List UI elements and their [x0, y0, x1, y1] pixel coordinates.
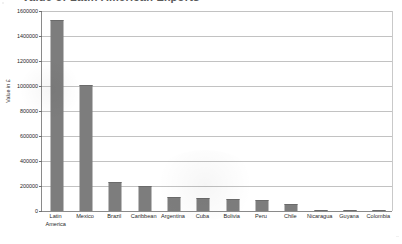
bar-slot [159, 11, 188, 211]
scan-speck [396, 236, 399, 237]
bar-slot [189, 11, 218, 211]
bar[interactable] [343, 210, 356, 211]
chart-title-cutoff: Value of Latin American Exports [0, 0, 402, 6]
bar-slot [130, 11, 159, 211]
y-tick-label: 400000 [10, 158, 38, 164]
bar-slot [247, 11, 276, 211]
x-tick-label: LatinAmerica [41, 213, 70, 228]
bar-slot [101, 11, 130, 211]
x-axis-tick-labels: LatinAmericaMexicoBrazilCaribbeanArgenti… [41, 213, 393, 243]
chart-title-text: Value of Latin American Exports [22, 0, 200, 3]
bar-slot [306, 11, 335, 211]
y-tick-label: 1400000 [10, 33, 38, 39]
x-tick-label: Argentina [158, 213, 187, 221]
x-tick-label: Caribbean [129, 213, 158, 221]
x-tick-label: Colombia [364, 213, 393, 221]
bar[interactable] [314, 210, 327, 211]
bar-slot [71, 11, 100, 211]
x-tick-label: Chile [276, 213, 305, 221]
y-tick-label: 600000 [10, 133, 38, 139]
plot-area [41, 11, 393, 211]
bar-slot [218, 11, 247, 211]
bar[interactable] [197, 198, 210, 211]
bar[interactable] [50, 20, 63, 211]
bar-chart: Value of Latin American Exports Value in… [0, 0, 402, 244]
bar[interactable] [255, 200, 268, 212]
x-tick-label: Mexico [70, 213, 99, 221]
x-tick-label: Brazil [100, 213, 129, 221]
y-tick-label: 1200000 [10, 58, 38, 64]
y-tick-label: 0 [10, 208, 38, 214]
bar-slot [277, 11, 306, 211]
axis-baseline [42, 211, 392, 212]
x-tick-label: Cuba [188, 213, 217, 221]
bar[interactable] [226, 199, 239, 212]
bar[interactable] [167, 197, 180, 211]
bar[interactable] [373, 210, 386, 211]
bar[interactable] [79, 85, 92, 211]
bar-slot [335, 11, 364, 211]
bar-series [42, 11, 392, 211]
x-tick-label: Nicaragua [305, 213, 334, 221]
y-tick-label: 1000000 [10, 83, 38, 89]
bar-slot [42, 11, 71, 211]
y-tick-mark [39, 211, 42, 212]
bar[interactable] [109, 182, 122, 211]
bar[interactable] [138, 186, 151, 211]
x-tick-label: Peru [246, 213, 275, 221]
y-tick-label: 1600000 [10, 8, 38, 14]
y-axis-tick-labels: 1600000140000012000001000000800000600000… [10, 0, 38, 244]
y-tick-label: 800000 [10, 108, 38, 114]
bar-slot [365, 11, 394, 211]
x-tick-label: Bolivia [217, 213, 246, 221]
y-tick-label: 200000 [10, 183, 38, 189]
x-tick-label: Guyana [334, 213, 363, 221]
bar[interactable] [285, 204, 298, 211]
